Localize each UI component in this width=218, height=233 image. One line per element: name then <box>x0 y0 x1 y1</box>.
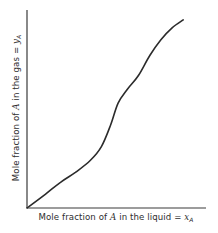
x-axis-label-prefix: Mole fraction of <box>38 212 110 222</box>
equilibrium-curve <box>27 20 183 208</box>
x-axis-label-subscript: A <box>189 216 193 223</box>
y-axis-label: Mole fraction of A in the gas = yA <box>11 35 22 181</box>
y-axis-label-symbol: y <box>11 39 21 44</box>
x-axis-label: Mole fraction of A in the liquid = xA <box>0 212 218 223</box>
y-axis-label-middle: in the gas = <box>11 44 21 103</box>
y-axis-label-subscript: A <box>15 35 22 39</box>
chart <box>0 0 218 233</box>
y-axis-label-variable: A <box>11 103 21 109</box>
x-axis-label-middle: in the liquid = <box>116 212 184 222</box>
y-axis-label-prefix: Mole fraction of <box>11 110 21 182</box>
